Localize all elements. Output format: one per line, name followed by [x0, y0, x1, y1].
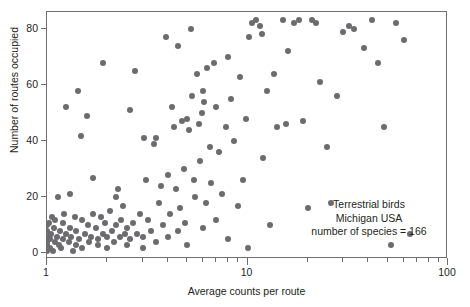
data-point: [204, 65, 210, 71]
data-point: [203, 200, 209, 206]
data-point: [60, 236, 66, 242]
data-point: [132, 68, 138, 74]
data-point: [68, 234, 74, 240]
data-point: [208, 180, 214, 186]
data-point: [225, 54, 231, 60]
data-point: [127, 236, 133, 242]
x-tick-mark-minor: [403, 258, 404, 262]
data-point: [175, 228, 181, 234]
data-point: [111, 239, 117, 245]
data-point: [137, 211, 143, 217]
data-point: [313, 20, 319, 26]
data-point: [188, 26, 194, 32]
data-point: [61, 211, 67, 217]
data-point: [115, 186, 121, 192]
chart-page: Number of routes occupied 020406080 1101…: [0, 0, 470, 307]
data-point: [90, 175, 96, 181]
x-tick-mark-minor: [387, 258, 388, 262]
data-point: [173, 186, 179, 192]
x-axis-label: Average counts per route: [46, 285, 447, 297]
data-point: [200, 88, 206, 94]
data-point: [182, 220, 188, 226]
data-point: [100, 60, 106, 66]
data-point: [95, 236, 101, 242]
data-point: [401, 37, 407, 43]
x-tick-mark-minor: [428, 258, 429, 262]
data-point: [211, 60, 217, 66]
data-point: [189, 93, 195, 99]
data-point: [201, 99, 207, 105]
data-point: [118, 217, 124, 223]
annotation-line-1: Terrestrial birds: [296, 198, 442, 212]
data-point: [60, 220, 66, 226]
x-tick-label: 10: [227, 267, 267, 278]
data-point: [134, 231, 140, 237]
y-tick-label: 40: [0, 135, 38, 145]
data-point: [66, 239, 72, 245]
data-point: [165, 172, 171, 178]
data-point: [184, 116, 190, 122]
data-point: [124, 242, 130, 248]
data-point: [186, 127, 192, 133]
data-point: [271, 71, 277, 77]
x-tick-mark-minor: [215, 258, 216, 262]
data-point: [79, 245, 85, 251]
data-point: [160, 222, 166, 228]
data-point: [393, 20, 399, 26]
x-tick-mark-minor: [106, 258, 107, 262]
data-point: [317, 79, 323, 85]
data-point: [158, 183, 164, 189]
y-tick-label: 80: [0, 23, 38, 33]
data-point: [104, 234, 110, 240]
data-point: [192, 194, 198, 200]
data-point: [245, 245, 251, 251]
x-tick-mark-minor: [237, 258, 238, 262]
data-point: [381, 124, 387, 130]
data-point: [228, 96, 234, 102]
data-point: [231, 138, 237, 144]
x-tick-mark-minor: [342, 258, 343, 262]
data-point: [107, 208, 113, 214]
data-point: [165, 234, 171, 240]
data-point: [47, 220, 52, 226]
data-point: [140, 245, 146, 251]
data-point: [296, 17, 302, 23]
data-point: [50, 248, 56, 254]
data-point: [143, 177, 149, 183]
data-point: [141, 135, 147, 141]
data-point: [169, 104, 175, 110]
data-point: [163, 34, 169, 40]
data-point: [67, 191, 73, 197]
data-point: [184, 242, 190, 248]
data-point: [237, 74, 243, 80]
data-point: [130, 220, 136, 226]
data-point: [177, 205, 183, 211]
data-point: [388, 242, 394, 248]
data-point: [78, 133, 84, 139]
data-point: [175, 43, 181, 49]
data-point: [113, 222, 119, 228]
x-tick-mark-minor: [307, 258, 308, 262]
data-point: [300, 118, 306, 124]
data-point: [199, 110, 205, 116]
data-point: [207, 144, 213, 150]
data-point: [243, 116, 249, 122]
data-point: [219, 191, 225, 197]
data-point: [240, 177, 246, 183]
data-point: [267, 222, 273, 228]
data-point: [351, 26, 357, 32]
data-point: [79, 217, 85, 223]
x-tick-mark-minor: [167, 258, 168, 262]
data-point: [113, 194, 119, 200]
data-point: [274, 124, 280, 130]
data-point: [98, 214, 104, 220]
x-tick-mark-major: [247, 258, 248, 265]
data-point: [225, 236, 231, 242]
data-point: [120, 203, 126, 209]
data-point: [235, 203, 241, 209]
x-tick-mark-major: [46, 258, 47, 265]
data-point: [124, 225, 130, 231]
data-point: [73, 228, 79, 234]
data-point: [191, 177, 197, 183]
data-point: [151, 141, 157, 147]
